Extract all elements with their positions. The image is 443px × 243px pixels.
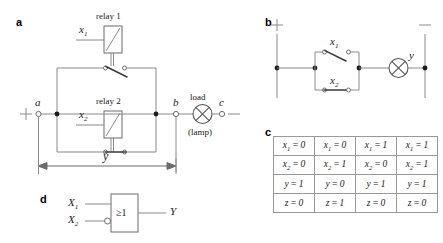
panel-d-logic-gate [0,0,443,243]
gate-input2-label: X2 [68,213,78,228]
gate-output-label: Y [170,205,176,217]
gate-symbol-label: ≥1 [116,207,127,218]
gate-input1-label: X1 [68,196,78,211]
gate-input2-inversion-bubble [105,218,111,224]
